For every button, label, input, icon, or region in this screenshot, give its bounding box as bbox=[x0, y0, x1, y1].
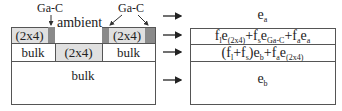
ambient-energy: ea bbox=[190, 8, 335, 24]
row1-left-2x4-cell: (2x4) bbox=[11, 27, 48, 43]
gac-right-strip-a bbox=[102, 27, 109, 43]
border bbox=[11, 27, 48, 28]
border bbox=[335, 28, 336, 105]
row3-bulk-cell: bulk bbox=[11, 61, 155, 104]
border bbox=[11, 43, 156, 44]
border bbox=[190, 104, 336, 105]
border bbox=[102, 43, 103, 61]
row2-left-bulk-cell: bulk bbox=[11, 43, 55, 61]
row2-right-bulk-cell: bulk bbox=[102, 43, 155, 61]
subsurface-energy-formula: (fl+fs)eb+fae(2x4) bbox=[190, 46, 335, 62]
border bbox=[11, 104, 156, 105]
gac-right-strip-b bbox=[145, 27, 155, 43]
mapping-arrows-icon bbox=[160, 0, 190, 111]
gac-pointer-arrows-icon bbox=[0, 0, 160, 30]
gac-left-strip bbox=[48, 27, 55, 43]
bulk-energy: eb bbox=[190, 72, 335, 88]
row2-middle-2x4-cell: (2x4) bbox=[55, 43, 102, 61]
border bbox=[102, 27, 155, 28]
row1-right-2x4-cell: (2x4) bbox=[109, 27, 145, 43]
border bbox=[155, 27, 156, 104]
border bbox=[11, 61, 156, 62]
border bbox=[55, 43, 56, 61]
border bbox=[11, 27, 12, 104]
surface-energy-formula: fle(2x4)+fseGa-C+faea bbox=[190, 29, 335, 45]
